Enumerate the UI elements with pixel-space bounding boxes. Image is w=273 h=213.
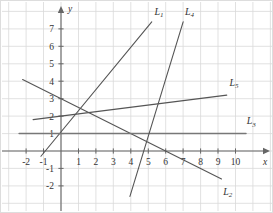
x-tick-label: 4 bbox=[128, 157, 133, 167]
y-axis-label: y bbox=[67, 4, 73, 14]
y-tick-label: 6 bbox=[49, 42, 54, 52]
y-tick-label: -2 bbox=[46, 181, 54, 191]
x-tick-label: 3 bbox=[111, 157, 116, 167]
series-label-subscript: 2 bbox=[229, 191, 233, 199]
x-tick-label: -2 bbox=[22, 157, 30, 167]
y-tick-label: 5 bbox=[49, 59, 54, 69]
x-tick-label: 6 bbox=[163, 157, 168, 167]
coordinate-plot: -2-1123456789107654321-1-2 L1L2L3L4L5 xy bbox=[0, 0, 273, 213]
x-tick-label: 10 bbox=[231, 157, 241, 167]
x-tick-label: 5 bbox=[146, 157, 151, 167]
y-tick-label: 3 bbox=[49, 94, 54, 104]
series-label-subscript: 5 bbox=[235, 82, 239, 90]
y-tick-label: -1 bbox=[46, 164, 54, 174]
x-tick-label: 2 bbox=[94, 157, 99, 167]
x-tick-label: 8 bbox=[198, 157, 203, 167]
graph-figure: -2-1123456789107654321-1-2 L1L2L3L4L5 xy bbox=[0, 0, 273, 213]
series-label-subscript: 4 bbox=[190, 11, 194, 19]
x-tick-label: 1 bbox=[76, 157, 81, 167]
y-tick-label: 4 bbox=[49, 77, 54, 87]
x-axis-label: x bbox=[262, 157, 268, 167]
series-label-subscript: 3 bbox=[251, 121, 256, 129]
series-label-subscript: 1 bbox=[160, 11, 164, 19]
y-tick-label: 7 bbox=[49, 24, 54, 34]
x-tick-label: 9 bbox=[216, 157, 221, 167]
